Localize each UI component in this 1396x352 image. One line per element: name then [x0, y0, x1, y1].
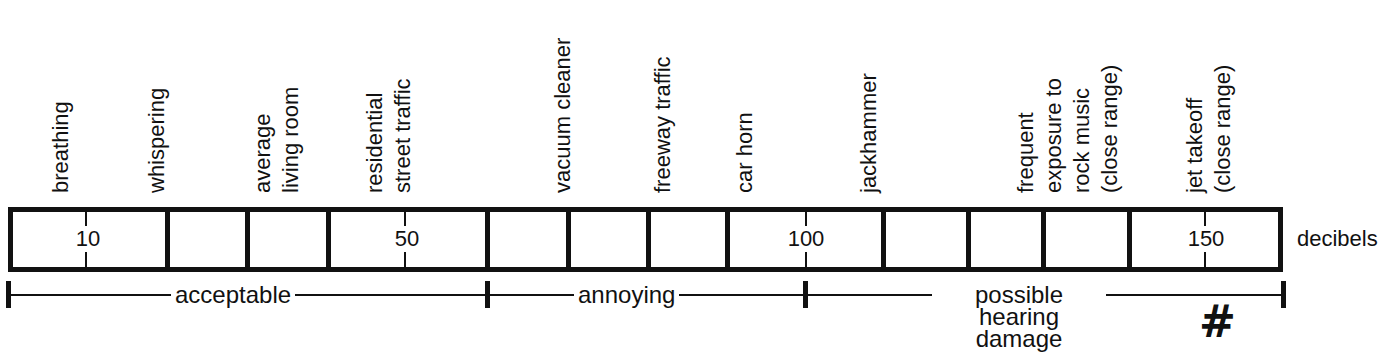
label-car-horn: car horn — [731, 112, 759, 193]
label-average-living-room: average living room — [249, 87, 305, 193]
range-bracket-start — [6, 281, 11, 308]
label-vacuum-cleaner: vacuum cleaner — [549, 38, 577, 193]
segment-divider — [1041, 207, 1046, 272]
label-rock-music: frequent exposure to rock music (close r… — [1012, 65, 1124, 193]
segment-divider — [881, 207, 886, 272]
tick-100-bottom — [805, 252, 807, 267]
segment-divider — [725, 207, 730, 272]
segment-divider — [485, 207, 490, 272]
label-jackhammer: jackhammer — [855, 73, 883, 193]
tick-10-bottom — [85, 252, 87, 267]
segment-divider — [165, 207, 170, 272]
scale-label-150: 150 — [1187, 226, 1226, 252]
range-label-possible-hearing-damage: possible hearing damage — [932, 284, 1106, 350]
hash-mark-annotation: # — [1199, 300, 1236, 344]
range-bracket-annoying-damage — [803, 281, 808, 308]
range-label-annoying: annoying — [574, 284, 679, 306]
scale-label-100: 100 — [787, 226, 826, 252]
segment-divider — [966, 207, 971, 272]
label-breathing: breathing — [47, 101, 75, 193]
scale-label-50: 50 — [394, 226, 420, 252]
label-jet-takeoff: jet takeoff (close range) — [1181, 65, 1237, 193]
segment-divider — [646, 207, 651, 272]
range-bracket-acceptable-annoying — [485, 281, 490, 308]
unit-label: decibels — [1297, 226, 1378, 252]
scale-label-10: 10 — [75, 226, 101, 252]
range-bracket-end — [1281, 281, 1286, 308]
segment-divider — [245, 207, 250, 272]
label-whispering: whispering — [143, 88, 171, 193]
tick-50-bottom — [404, 252, 406, 267]
range-label-acceptable: acceptable — [171, 284, 295, 306]
segment-divider — [326, 207, 331, 272]
tick-150-bottom — [1204, 252, 1206, 267]
label-freeway-traffic: freeway traffic — [649, 56, 677, 193]
segment-divider — [566, 207, 571, 272]
label-residential-street-traffic: residential street traffic — [361, 78, 417, 193]
segment-divider — [1127, 207, 1132, 272]
